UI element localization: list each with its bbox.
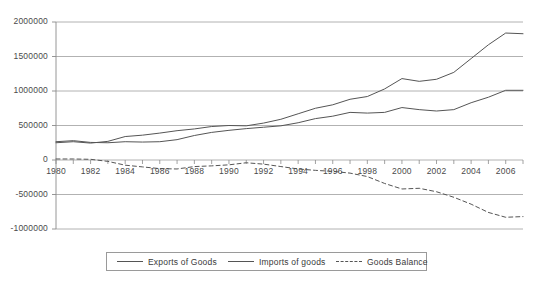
- y-axis-tick-label: 1500000: [0, 51, 48, 61]
- line-chart: 2000000150000010000005000000-500000-1000…: [0, 0, 533, 282]
- y-axis-tick-label: -1000000: [0, 223, 48, 233]
- x-axis-tick-marks: [56, 160, 523, 164]
- legend-label: Imports of goods: [259, 257, 326, 267]
- chart-plot-area: [0, 0, 533, 282]
- legend-item-exports-of-goods[interactable]: Exports of Goods: [117, 253, 217, 270]
- legend-line-swatch: [228, 261, 254, 262]
- x-axis-tick-label: 2006: [486, 166, 526, 176]
- y-axis-tick-label: 1000000: [0, 85, 48, 95]
- legend-item-imports-of-goods[interactable]: Imports of goods: [228, 253, 326, 270]
- legend-label: Goods Balance: [367, 257, 428, 267]
- y-axis-tick-label: -500000: [0, 189, 48, 199]
- y-axis-tick-marks: [52, 22, 56, 229]
- y-axis-tick-label: 500000: [0, 120, 48, 130]
- series-line-imports-of-goods: [56, 33, 523, 143]
- y-axis-tick-label: 2000000: [0, 16, 48, 26]
- gridlines: [56, 22, 523, 229]
- legend-line-swatch: [117, 261, 143, 262]
- legend-label: Exports of Goods: [148, 257, 217, 267]
- legend-item-goods-balance[interactable]: Goods Balance: [336, 253, 428, 270]
- y-axis-tick-label: 0: [0, 154, 48, 164]
- chart-legend: Exports of GoodsImports of goodsGoods Ba…: [106, 252, 427, 271]
- legend-line-swatch: [336, 261, 362, 262]
